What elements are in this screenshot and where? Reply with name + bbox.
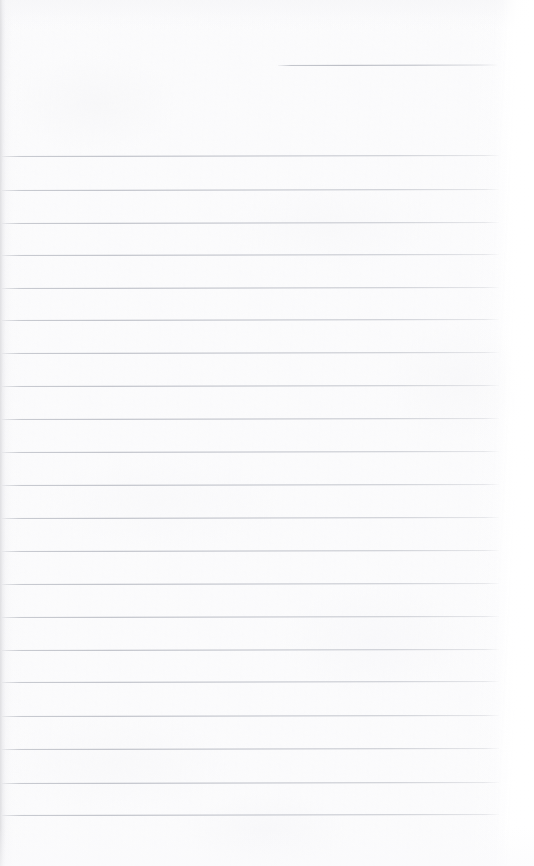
writing-area[interactable] bbox=[0, 0, 534, 866]
scanned-page-canvas bbox=[0, 0, 534, 866]
